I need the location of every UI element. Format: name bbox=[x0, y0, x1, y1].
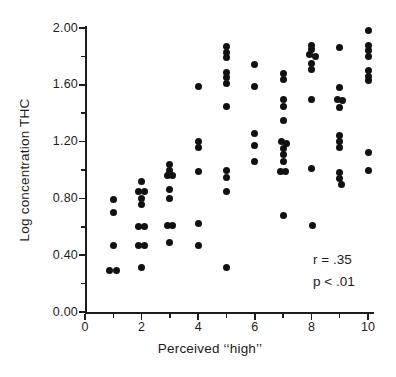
data-point bbox=[365, 27, 372, 34]
x-minor-tick bbox=[282, 314, 284, 318]
y-axis-line bbox=[85, 26, 87, 314]
data-point bbox=[339, 97, 346, 104]
data-point bbox=[113, 267, 120, 274]
data-point bbox=[110, 242, 117, 249]
y-tick-label: 1.60 bbox=[44, 77, 78, 92]
data-point bbox=[365, 67, 372, 74]
data-point bbox=[195, 168, 202, 175]
data-point bbox=[195, 138, 202, 145]
data-point bbox=[251, 142, 258, 149]
x-minor-tick bbox=[113, 314, 115, 318]
y-minor-tick bbox=[81, 169, 85, 171]
data-point bbox=[169, 222, 176, 229]
x-minor-tick bbox=[169, 314, 171, 318]
data-point bbox=[166, 239, 173, 246]
p-value-text: p < .01 bbox=[313, 271, 355, 293]
data-point bbox=[138, 264, 145, 271]
data-point bbox=[195, 83, 202, 90]
y-minor-tick bbox=[81, 283, 85, 285]
data-point bbox=[336, 44, 343, 51]
data-point bbox=[251, 130, 258, 137]
data-point bbox=[195, 242, 202, 249]
data-point bbox=[308, 165, 315, 172]
y-tick-label: 2.00 bbox=[44, 21, 78, 36]
y-tick-label: 0.40 bbox=[44, 248, 78, 263]
x-tick-label: 2 bbox=[129, 320, 155, 335]
data-point bbox=[141, 188, 148, 195]
data-point bbox=[280, 117, 287, 124]
data-point bbox=[223, 43, 230, 50]
x-minor-tick bbox=[226, 314, 228, 318]
x-tick bbox=[254, 314, 256, 320]
x-axis-title: Perceived ‘‘high’’ bbox=[85, 341, 335, 356]
data-point bbox=[282, 168, 289, 175]
x-tick bbox=[197, 314, 199, 320]
x-tick bbox=[84, 314, 86, 320]
y-tick-label: 0.00 bbox=[44, 305, 78, 320]
data-point bbox=[223, 174, 230, 181]
x-tick-label: 4 bbox=[185, 320, 211, 335]
x-minor-tick bbox=[339, 314, 341, 318]
data-point bbox=[251, 61, 258, 68]
x-tick-label: 6 bbox=[242, 320, 268, 335]
data-point bbox=[336, 138, 343, 145]
data-point bbox=[309, 222, 316, 229]
data-point bbox=[280, 103, 287, 110]
data-point bbox=[166, 195, 173, 202]
data-point bbox=[280, 70, 287, 77]
y-tick bbox=[79, 198, 85, 200]
x-tick-label: 8 bbox=[298, 320, 324, 335]
y-minor-tick bbox=[81, 56, 85, 58]
y-minor-tick bbox=[81, 226, 85, 228]
y-tick bbox=[79, 141, 85, 143]
data-point bbox=[141, 223, 148, 230]
data-point bbox=[223, 103, 230, 110]
x-tick bbox=[141, 314, 143, 320]
data-point bbox=[336, 104, 343, 111]
data-point bbox=[308, 42, 315, 49]
data-point bbox=[223, 167, 230, 174]
x-tick-label: 0 bbox=[72, 320, 98, 335]
x-axis-line bbox=[85, 312, 374, 314]
data-point bbox=[138, 178, 145, 185]
data-point bbox=[283, 140, 290, 147]
data-point bbox=[251, 83, 258, 90]
y-tick bbox=[79, 254, 85, 256]
correlation-annotation: r = .35 p < .01 bbox=[313, 249, 355, 293]
x-tick-label: 10 bbox=[355, 320, 381, 335]
data-point bbox=[223, 264, 230, 271]
data-point bbox=[365, 167, 372, 174]
y-tick-label: 1.20 bbox=[44, 134, 78, 149]
r-value-text: r = .35 bbox=[313, 249, 355, 271]
data-point bbox=[308, 96, 315, 103]
data-point bbox=[336, 84, 343, 91]
y-tick bbox=[79, 84, 85, 86]
data-point bbox=[223, 188, 230, 195]
data-point bbox=[365, 149, 372, 156]
data-point bbox=[138, 195, 145, 202]
data-point bbox=[312, 53, 319, 60]
y-axis-title: Log concentration THC bbox=[16, 30, 34, 310]
data-point bbox=[166, 186, 173, 193]
data-point bbox=[280, 212, 287, 219]
data-point bbox=[195, 220, 202, 227]
y-tick bbox=[79, 27, 85, 29]
data-point bbox=[141, 242, 148, 249]
data-point bbox=[251, 158, 258, 165]
data-point bbox=[280, 96, 287, 103]
data-point bbox=[110, 209, 117, 216]
data-point bbox=[110, 196, 117, 203]
data-point bbox=[280, 158, 287, 165]
data-point bbox=[365, 42, 372, 49]
data-point bbox=[223, 69, 230, 76]
y-tick-label: 0.80 bbox=[44, 191, 78, 206]
x-tick bbox=[311, 314, 313, 320]
data-point bbox=[308, 60, 315, 67]
x-tick bbox=[367, 314, 369, 320]
scatter-plot-figure: Log concentration THC Perceived ‘‘high’’… bbox=[0, 0, 396, 377]
y-minor-tick bbox=[81, 112, 85, 114]
data-point bbox=[166, 161, 173, 168]
